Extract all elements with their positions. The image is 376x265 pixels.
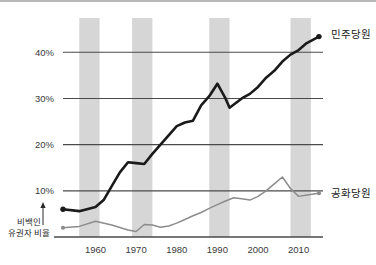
shaded-band-0 xyxy=(79,18,99,237)
y-axis-caption-line-1: 유권자 비율 xyxy=(8,228,51,238)
up-arrow-head-icon xyxy=(40,202,45,208)
y-axis-caption: 비백인유권자 비율 xyxy=(8,202,51,238)
x-tick-label-1960: 1960 xyxy=(85,244,106,255)
shaded-bands xyxy=(79,18,311,237)
x-tick-label-2000: 2000 xyxy=(247,244,268,255)
y-tick-label-30%: 30% xyxy=(35,93,55,104)
y-tick-label-20%: 20% xyxy=(35,139,55,150)
shaded-band-3 xyxy=(291,18,311,237)
y-axis-caption-line-0: 비백인 xyxy=(17,217,41,227)
shaded-band-1 xyxy=(132,18,152,237)
series-label-0: 민주당원 xyxy=(331,28,371,40)
series-marker-0 xyxy=(61,226,65,230)
y-tick-label-40%: 40% xyxy=(35,47,55,58)
series-line xyxy=(63,37,319,212)
x-tick-label-2010: 2010 xyxy=(288,244,309,255)
x-tick-label-1980: 1980 xyxy=(166,244,187,255)
series-label-1: 공화당원 xyxy=(331,187,371,199)
y-tick-label-10%: 10% xyxy=(35,185,55,196)
series-line xyxy=(63,177,319,231)
x-tick-label-1970: 1970 xyxy=(126,244,147,255)
x-tick-label-1990: 1990 xyxy=(207,244,228,255)
series-marker-1 xyxy=(316,34,321,39)
series-marker-1 xyxy=(317,191,321,195)
series-marker-0 xyxy=(60,207,65,212)
x-axis: 196019701980199020002010 xyxy=(85,244,309,255)
chart-frame: 10%20%30%40%196019701980199020002010민주당원… xyxy=(0,0,376,265)
y-axis: 10%20%30%40% xyxy=(35,47,55,197)
line-chart: 10%20%30%40%196019701980199020002010민주당원… xyxy=(0,2,376,265)
